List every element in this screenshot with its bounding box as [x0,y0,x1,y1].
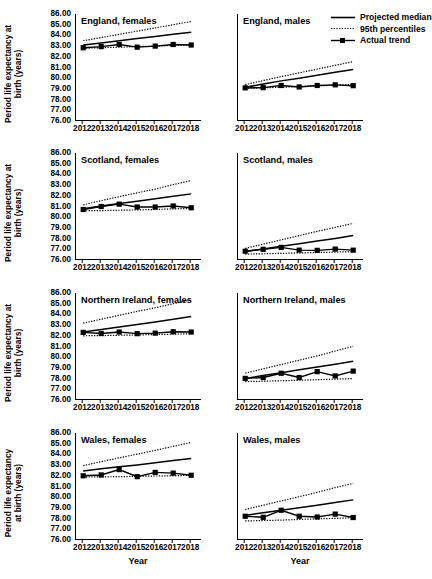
x-tick-label: 2015 [289,264,307,272]
y-tick-label: 85.00 [51,160,72,168]
x-tick-label: 2018 [181,544,199,552]
legend-item-95th-percentiles: 95th percentiles [330,24,425,34]
y-tick-label: 84.00 [51,170,72,178]
x-axis-label: Year [128,556,147,566]
y-axis-title-line-2: at birth (years) [13,449,23,537]
panel-wales-males: Wales, males [237,433,363,540]
x-tick-label: 2013 [253,125,271,133]
x-tick-label: 2018 [343,404,361,412]
x-tick-label: 2014 [109,264,127,272]
legend-key-icon [330,13,356,22]
legend: Projected median95th percentilesActual t… [330,12,420,48]
x-tick-label: 2018 [343,264,361,272]
panel-row-1: Period life expectancy atbirth (years)86… [0,139,418,279]
y-tick-label: 80.00 [51,353,72,361]
x-tick-label: 2016 [145,544,163,552]
axis-ticks [237,153,366,266]
y-tick-label: 80.00 [51,493,72,501]
x-tick-label: 2014 [109,125,127,133]
y-tick-label: 77.00 [51,385,72,393]
y-tick-label: 77.00 [51,525,72,533]
legend-key-icon [330,36,356,45]
x-tick-label: 2016 [145,264,163,272]
axis-ticks [75,14,204,127]
y-tick-label: 82.00 [51,192,72,200]
axis-ticks [75,433,204,546]
x-tick-label: 2014 [271,544,289,552]
panel-northern-ireland-females: Northern Ireland, females [75,293,201,400]
panel-northern-ireland-males: Northern Ireland, males [237,293,363,400]
axis-ticks [237,433,366,546]
y-axis-title-line-1: Period life expectancy [3,449,13,537]
panel-title: Wales, females [81,435,147,445]
y-axis-tick-labels: 86.0085.0084.0083.0082.0081.0080.0079.00… [35,433,71,540]
y-tick-label: 81.00 [51,482,72,490]
panel-scotland-males: Scotland, males [237,153,363,260]
x-tick-label: 2016 [307,544,325,552]
x-tick-label: 2012 [235,544,253,552]
x-tick-label: 2014 [271,125,289,133]
panel-england-females: England, females [75,14,201,121]
y-tick-label: 83.00 [51,321,72,329]
legend-label: Projected median [360,12,432,22]
axis-ticks [75,153,204,266]
x-axis-label: Year [290,556,309,566]
panel-title: Northern Ireland, females [81,295,192,305]
x-tick-label: 2018 [181,404,199,412]
legend-item-projected-median: Projected median [330,12,432,22]
y-axis-title-line-2: birth (years) [13,25,23,123]
y-tick-label: 83.00 [51,181,72,189]
panel-scotland-females: Scotland, females [75,153,201,260]
y-tick-label: 82.00 [51,472,72,480]
x-tick-label: 2014 [109,404,127,412]
y-tick-label: 76.00 [51,256,72,264]
panel-title: Wales, males [243,435,300,445]
y-tick-label: 82.00 [51,332,72,340]
x-tick-label: 2015 [289,404,307,412]
x-tick-label: 2013 [253,544,271,552]
y-axis-tick-labels: 86.0085.0084.0083.0082.0081.0080.0079.00… [35,293,71,400]
axis-ticks [75,293,204,406]
x-tick-label: 2013 [91,544,109,552]
y-tick-label: 86.00 [51,10,72,18]
y-tick-label: 83.00 [51,461,72,469]
y-axis-title-line-1: Period life expectancy at [3,25,13,123]
x-tick-label: 2017 [325,544,343,552]
x-tick-label: 2017 [325,264,343,272]
x-tick-label: 2013 [91,264,109,272]
y-tick-label: 79.00 [51,224,72,232]
y-axis-title-line-1: Period life expectancy at [3,304,13,402]
y-axis-title-line-2: birth (years) [13,164,23,262]
y-tick-label: 86.00 [51,149,72,157]
x-tick-label: 2012 [73,404,91,412]
x-tick-label: 2017 [325,125,343,133]
panel-title: England, males [243,16,310,26]
y-tick-label: 86.00 [51,289,72,297]
y-axis-title: Period life expectancy atbirth (years) [0,153,26,273]
panel-row-3: Period life expectancyat birth (years)86… [0,419,418,579]
y-axis-title-line-1: Period life expectancy at [3,164,13,262]
y-axis-tick-labels: 86.0085.0084.0083.0082.0081.0080.0079.00… [35,153,71,260]
x-tick-label: 2012 [73,125,91,133]
x-tick-label: 2017 [163,544,181,552]
y-tick-label: 78.00 [51,374,72,382]
y-axis-title: Period life expectancy atbirth (years) [0,14,26,134]
x-tick-label: 2018 [181,264,199,272]
x-tick-label: 2015 [127,404,145,412]
panel-title: Northern Ireland, males [243,295,346,305]
x-tick-label: 2012 [235,125,253,133]
y-tick-label: 81.00 [51,63,72,71]
panel-wales-females: Wales, females [75,433,201,540]
y-axis-title-line-2: birth (years) [13,304,23,402]
y-tick-label: 85.00 [51,300,72,308]
y-tick-label: 77.00 [51,106,72,114]
panel-title: England, females [81,16,157,26]
y-tick-label: 78.00 [51,234,72,242]
x-tick-label: 2015 [289,125,307,133]
y-tick-label: 84.00 [51,31,72,39]
x-tick-label: 2012 [73,544,91,552]
legend-label: 95th percentiles [360,24,425,34]
y-tick-label: 79.00 [51,85,72,93]
y-tick-label: 79.00 [51,364,72,372]
y-tick-label: 81.00 [51,202,72,210]
